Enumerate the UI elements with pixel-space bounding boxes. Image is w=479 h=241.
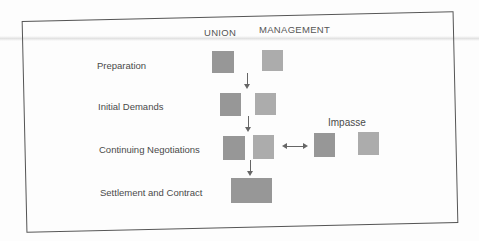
management-box-continuing-negotiations	[253, 135, 274, 159]
arrow-down-icon	[248, 116, 249, 128]
arrow-down-icon	[247, 73, 248, 85]
union-box-preparation	[212, 51, 234, 73]
management-box-preparation	[262, 50, 283, 71]
impasse-label: Impasse	[328, 117, 366, 128]
arrow-down-icon	[250, 160, 251, 172]
double-arrow-icon	[286, 146, 304, 147]
stage-label-preparation: Preparation	[97, 60, 146, 71]
stage-label-initial-demands: Initial Demands	[98, 101, 163, 112]
settlement-contract-box	[231, 178, 272, 203]
union-box-continuing-negotiations	[223, 136, 245, 160]
union-header: UNION	[204, 27, 236, 38]
stage-label-settlement: Settlement and Contract	[100, 187, 202, 198]
impasse-management-box	[358, 132, 379, 155]
management-header: MANAGEMENT	[259, 24, 330, 35]
union-box-initial-demands	[220, 93, 241, 116]
stage-label-continuing-negotiations: Continuing Negotiations	[99, 144, 200, 155]
management-box-initial-demands	[255, 93, 276, 115]
impasse-union-box	[314, 133, 335, 157]
